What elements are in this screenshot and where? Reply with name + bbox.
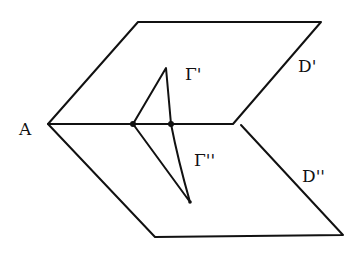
label-curve-upper: Γ' xyxy=(185,66,201,83)
label-plane-upper: D' xyxy=(298,58,316,75)
plane-lower-outline xyxy=(48,124,343,237)
diagram-canvas: A Γ' Γ'' D' D'' xyxy=(0,0,357,255)
curve-lower-endpoint xyxy=(188,200,192,204)
label-vertex-a: A xyxy=(19,121,31,138)
intersection-point-2 xyxy=(168,121,174,127)
diagram-lines xyxy=(0,0,357,255)
curve-upper xyxy=(133,68,171,124)
intersection-point-1 xyxy=(130,121,136,127)
label-curve-lower: Γ'' xyxy=(194,152,215,169)
label-plane-lower: D'' xyxy=(302,168,325,185)
curve-lower xyxy=(133,124,190,202)
